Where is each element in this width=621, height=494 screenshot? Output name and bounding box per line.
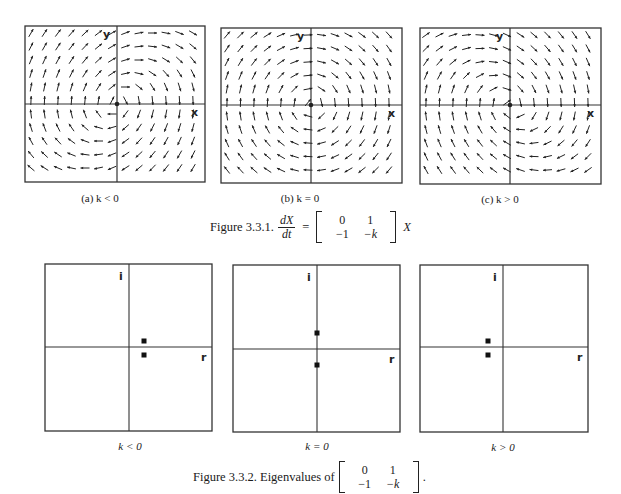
real-axis-label: r — [577, 351, 583, 364]
eigenvalue-marker — [315, 363, 320, 368]
eigenvalue-marker — [315, 331, 320, 336]
real-axis-label: r — [389, 353, 395, 366]
matrix-cell: 0 — [351, 463, 379, 477]
eigenvalue-marker — [486, 339, 491, 344]
caption-period: . — [423, 470, 426, 485]
eigenvalue-plot-2: ir — [233, 265, 400, 432]
matrix-cell: −1 — [351, 477, 379, 491]
eigenvalue-plot-1: ir — [45, 264, 212, 431]
imaginary-axis-label: i — [493, 271, 497, 284]
eigenvalue-marker — [142, 339, 147, 344]
eigen-caption-2: k = 0 — [277, 440, 357, 452]
imaginary-axis-label: i — [307, 271, 311, 284]
matrix-cell: −k — [379, 477, 407, 491]
eigenvalue-marker — [142, 353, 147, 358]
eigen-caption-text: k < 0 — [118, 440, 141, 452]
eigenvalue-marker — [486, 353, 491, 358]
right-bracket — [413, 461, 419, 493]
plot-frame — [420, 265, 588, 432]
eigenvalue-plot-3: ir — [420, 265, 588, 432]
real-axis-label: r — [201, 351, 207, 364]
matrix-cell: 1 — [379, 463, 407, 477]
eigen-caption-text: k > 0 — [491, 441, 514, 453]
imaginary-axis-label: i — [119, 270, 123, 283]
figure-caption-3-3-2: Figure 3.3.2. Eigenvalues of 0 1 −1 −k . — [193, 460, 426, 494]
figure-title: Figure 3.3.2. Eigenvalues of — [193, 470, 335, 485]
eigenvalue-plots: iririr — [0, 0, 621, 440]
eigen-caption-3: k > 0 — [463, 441, 543, 453]
eigen-caption-1: k < 0 — [90, 440, 170, 452]
eigen-caption-text: k = 0 — [305, 440, 328, 452]
eigen-matrix: 0 1 −1 −k — [339, 461, 419, 493]
